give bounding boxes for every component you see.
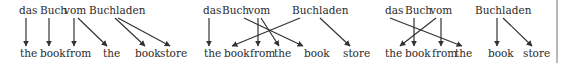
alignment-arrow [400, 18, 436, 46]
source-word: Buchladen [475, 4, 532, 16]
target-word: store [523, 47, 550, 59]
right-border-line [556, 0, 558, 63]
alignment-arrow [390, 18, 462, 46]
target-word: store [343, 47, 370, 59]
source-word: das [19, 4, 37, 16]
alignment-arrow [320, 18, 350, 46]
target-word: book [488, 47, 514, 59]
target-word: book [40, 47, 66, 59]
source-word: vom [63, 4, 86, 16]
target-word: the [204, 47, 221, 59]
alignment-arrow [78, 18, 107, 46]
alignment-arrow [115, 18, 145, 46]
target-word: the [103, 47, 120, 59]
target-word: the [385, 47, 402, 59]
target-word: book [304, 47, 330, 59]
source-word: Buchladen [89, 4, 146, 16]
alignment-arrow [232, 18, 300, 46]
alignment-panel-3: dasBuchvomBuchladenthebookfromthebooksto… [385, 4, 550, 59]
source-word: das [203, 4, 221, 16]
alignment-panel-2: dasBuchvomBuchladenthebookfromthebooksto… [203, 4, 370, 59]
target-word: from [250, 47, 275, 59]
target-word: store [160, 47, 187, 59]
target-word: the [274, 47, 291, 59]
target-word: book [135, 47, 161, 59]
alignment-diagram: dasBuchvomBuchladenthebookfromthebooksto… [0, 0, 561, 63]
alignment-arrow [244, 18, 303, 46]
source-word: das [385, 4, 403, 16]
target-word: from [66, 47, 91, 59]
source-word: Buch [405, 4, 432, 16]
source-word: Buchladen [292, 4, 349, 16]
target-word: from [432, 47, 457, 59]
source-word: vom [429, 4, 452, 16]
target-word: book [405, 47, 431, 59]
alignment-arrow [261, 18, 279, 46]
target-word: the [20, 47, 37, 59]
target-word: book [224, 47, 250, 59]
alignment-arrow [118, 18, 170, 46]
target-word: the [455, 47, 472, 59]
alignment-arrow [503, 18, 532, 46]
source-word: Buch [222, 4, 249, 16]
source-word: vom [247, 4, 270, 16]
alignment-panel-1: dasBuchvomBuchladenthebookfromthebooksto… [19, 4, 187, 59]
